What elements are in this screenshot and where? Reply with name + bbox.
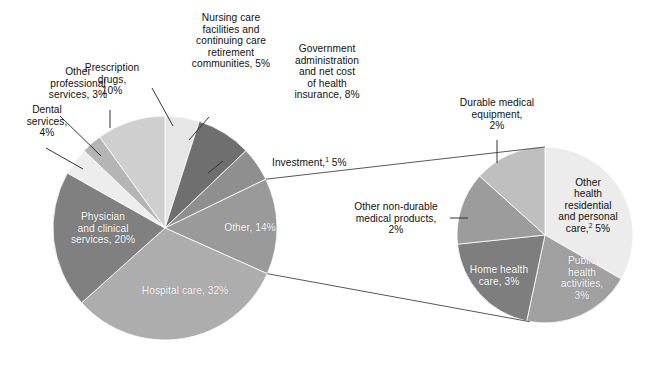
label-investment: Investment,1 5% <box>272 145 374 168</box>
label-other-nondurable-medical-products: Other non-durable medical products, 2% <box>340 201 452 236</box>
label-investment-text: Investment, <box>272 157 325 168</box>
label-government-administration: Government administration and net cost o… <box>272 43 382 101</box>
label-investment-value: 5% <box>329 157 347 168</box>
label-public-health-activities: Public health activities, 3% <box>546 255 618 301</box>
label-other-health-residential: Other health residential and personal ca… <box>546 165 630 235</box>
label-physician-clinical-services: Physician and clinical services, 20% <box>48 211 158 246</box>
label-durable-medical-equipment: Durable medical equipment, 2% <box>446 97 548 132</box>
label-prescription-drugs: Prescription drugs, 10% <box>64 62 160 97</box>
figure-canvas: Other professional services, 3% Dental s… <box>0 0 651 368</box>
label-other-slice: Other, 14% <box>200 222 300 234</box>
label-dental-services: Dental services, 4% <box>4 104 90 139</box>
label-home-health-care: Home health care, 3% <box>452 264 546 287</box>
label-hospital-care: Hospital care, 32% <box>120 285 250 297</box>
label-other-health-value: 5% <box>592 223 610 234</box>
